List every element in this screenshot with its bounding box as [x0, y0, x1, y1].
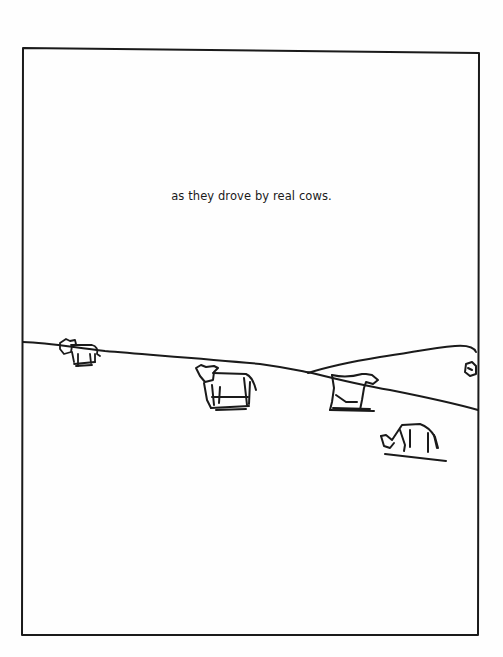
cow-icon	[196, 365, 256, 410]
frame-border	[22, 48, 479, 635]
cow-icon	[60, 339, 100, 366]
caption-text: as they drove by real cows.	[0, 189, 503, 203]
book-page: as they drove by real cows.	[0, 0, 503, 657]
hill-line-back	[308, 346, 476, 373]
cow-icon	[381, 424, 446, 461]
cow-icon	[465, 362, 476, 376]
illustration	[0, 0, 503, 657]
